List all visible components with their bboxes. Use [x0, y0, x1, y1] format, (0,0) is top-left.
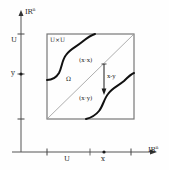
vertical-axis: [18, 10, 25, 152]
square-label: U×U: [50, 37, 65, 43]
diagonal-line: [47, 34, 134, 119]
figure-canvas: [0, 0, 169, 170]
math-figure: IRn IRn U y U x U×U Ω (x·x) (x·y) x-y: [0, 0, 169, 170]
vertical-tick-label-y: y: [11, 70, 15, 77]
horizontal-axis-label-sup: n: [155, 145, 158, 150]
omega-lower-curve: [86, 73, 134, 119]
segment-label-x-minus-y: x-y: [107, 73, 116, 79]
point-x-marker: [102, 150, 105, 153]
vertical-tick-label-U: U: [11, 37, 17, 44]
horizontal-tick-label-U: U: [64, 156, 70, 163]
horizontal-axis: [12, 149, 157, 156]
horizontal-tick-label-x: x: [101, 156, 105, 163]
x-minus-y-arrow: [102, 64, 107, 95]
point-label-xy: (x·y): [79, 95, 92, 101]
point-y-marker: [19, 72, 22, 75]
vertical-axis-label-sup: n: [32, 7, 35, 12]
vertical-axis-label: IRn: [25, 8, 35, 16]
vertical-axis-arrowhead: [19, 10, 24, 16]
omega-label: Ω: [66, 76, 71, 82]
point-label-xx: (x·x): [79, 57, 92, 63]
horizontal-axis-label: IRn: [148, 146, 158, 154]
